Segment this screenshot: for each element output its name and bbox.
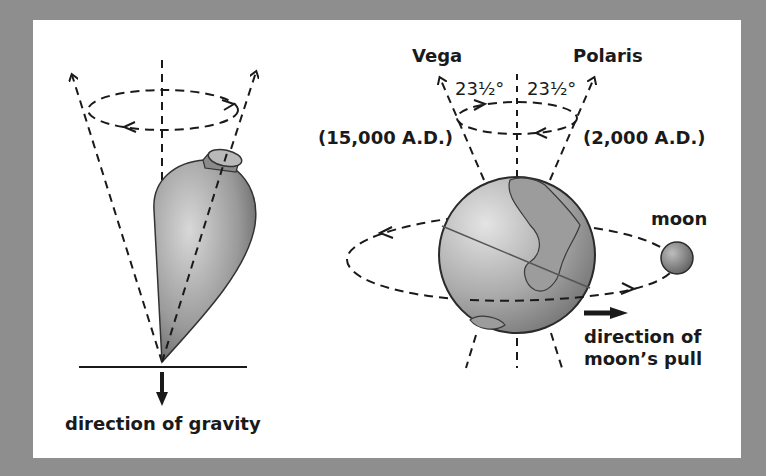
polaris-date-label: (2,000 A.D.) (583, 127, 706, 148)
earth-group (347, 70, 693, 368)
precession-line-left (72, 75, 162, 362)
moon-pull-label: direction of moon’s pull (584, 326, 702, 370)
arrowhead-icon (380, 227, 393, 238)
moon-orbit-upper (594, 228, 662, 248)
spinning-top-icon (154, 160, 256, 362)
moon-pull-label-line2: moon’s pull (584, 348, 702, 370)
earth-axis-lower-right (551, 333, 562, 368)
arrowhead-icon (621, 283, 634, 294)
vega-label: Vega (412, 45, 462, 66)
moon-label: moon (651, 208, 707, 229)
moon-pull-label-line1: direction of (584, 326, 702, 348)
gravity-label: direction of gravity (65, 413, 261, 434)
spinning-top-group (72, 60, 256, 406)
moon-pull-arrow-icon (610, 307, 628, 319)
vega-date-label: (15,000 A.D.) (318, 127, 453, 148)
arrowhead-icon (222, 100, 234, 110)
gravity-arrow-icon (156, 392, 168, 406)
precession-ellipse-earth (457, 102, 577, 134)
angle-right-label: 23½° (527, 78, 576, 99)
angle-left-label: 23½° (455, 78, 504, 99)
earth-axis-lower-left (466, 335, 476, 368)
moon-icon (661, 242, 693, 274)
polaris-label: Polaris (573, 45, 643, 66)
diagram-graphic (0, 0, 766, 476)
